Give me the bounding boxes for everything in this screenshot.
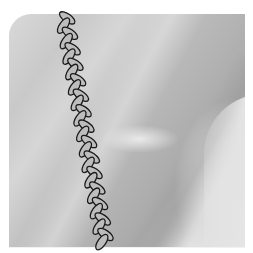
braided-chain: [0, 0, 253, 253]
